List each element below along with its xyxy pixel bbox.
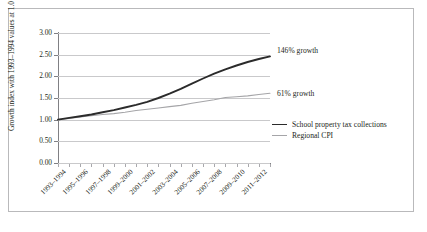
x-tick-mark [80,164,81,167]
y-tick-label: 3.00 [18,29,52,36]
y-tick-label: 0.50 [18,137,52,144]
x-tick-mark [192,164,193,167]
legend-item-school-property-tax: School property tax collections [272,119,387,130]
x-tick-mark [91,164,92,167]
y-tick-label: 0.00 [18,159,52,166]
legend-line-icon-cpi [272,135,287,136]
legend-item-regional-cpi: Regional CPI [272,130,387,141]
series-lines [58,33,271,164]
x-tick-mark [69,164,70,167]
x-tick-mark [147,164,148,167]
x-tick-mark [103,164,104,167]
x-tick-mark [270,164,271,167]
x-tick-mark [114,164,115,167]
legend-label-tax: School property tax collections [292,120,387,129]
line-school-property-tax [58,56,270,119]
x-tick-mark [248,164,249,167]
legend: School property tax collections Regional… [272,119,387,141]
x-tick-mark [136,164,137,167]
legend-line-icon-tax [272,124,287,125]
x-tick-mark [225,164,226,167]
x-tick-mark [58,164,59,167]
line-regional-cpi [58,93,270,119]
annotation-cpi-growth: 61% growth [277,89,314,98]
x-tick-mark [125,164,126,167]
annotation-tax-growth: 146% growth [277,46,318,55]
y-axis-label: Growth index with 1993–1994 values at 1.… [8,0,16,141]
x-tick-mark [203,164,204,167]
y-tick-label: 1.50 [18,94,52,101]
legend-label-cpi: Regional CPI [292,131,333,140]
x-tick-mark [237,164,238,167]
x-tick-mark [170,164,171,167]
x-tick-mark [214,164,215,167]
y-tick-label: 2.50 [18,51,52,58]
y-tick-label: 2.00 [18,72,52,79]
x-tick-mark [158,164,159,167]
x-tick-mark [259,164,260,167]
figure: Growth index with 1993–1994 values at 1.… [0,0,427,232]
x-tick-mark [181,164,182,167]
y-tick-label: 1.00 [18,116,52,123]
